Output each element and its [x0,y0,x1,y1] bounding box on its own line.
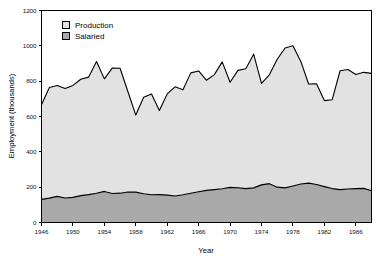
legend-label-salaried: Salaried [75,32,104,41]
x-axis-title: Year [198,246,214,255]
chart-canvas: 020040060080010001200 194619501954195819… [0,0,381,258]
y-tick-label: 0 [33,219,37,226]
x-tick-label: 1962 [160,228,174,235]
x-tick-label: 1954 [97,228,111,235]
legend-swatch-salaried [63,33,70,40]
x-tick-label: 1958 [129,228,143,235]
y-tick-label: 800 [26,77,37,84]
x-tick-label: 1982 [317,228,331,235]
employment-area-chart: 020040060080010001200 194619501954195819… [0,0,381,258]
x-tick-label: 1966 [192,228,206,235]
y-axis-title: Employment (thousands) [7,73,16,158]
y-tick-label: 400 [26,148,37,155]
y-tick-label: 1200 [23,7,37,14]
legend-label-production: Production [75,21,113,30]
x-tick-label: 1970 [223,228,237,235]
y-tick-label: 1000 [23,42,37,49]
y-tick-label: 600 [26,113,37,120]
y-tick-label: 200 [26,183,37,190]
x-tick-label: 1946 [35,228,49,235]
x-tick-label: 1978 [286,228,300,235]
x-tick-label: 1974 [255,228,269,235]
x-tick-label: 1950 [66,228,80,235]
legend-swatch-production [63,22,70,29]
x-tick-label: 1986 [349,228,363,235]
